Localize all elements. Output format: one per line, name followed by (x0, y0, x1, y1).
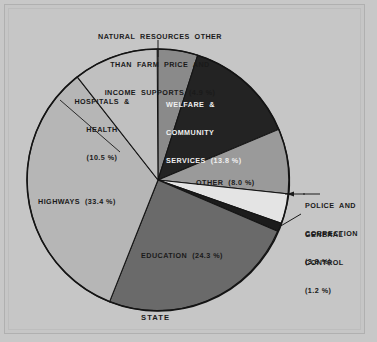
label-general-control-line3: (1.2 %) (305, 286, 375, 295)
label-highways: HIGHWAYS (33.4 %) (38, 179, 148, 225)
label-natural-resources-line2: THAN FARM PRICE AND (74, 60, 246, 69)
label-natural-resources-line1: NATURAL RESOURCES OTHER (74, 32, 246, 41)
label-other: OTHER (8.0 %) (196, 160, 286, 206)
label-welfare-line1: WELFARE & (166, 100, 276, 109)
figure-page: NATURAL RESOURCES OTHER THAN FARM PRICE … (0, 0, 377, 342)
label-general-control: GENERAL CONTROL (1.2 %) (305, 212, 375, 313)
label-education: EDUCATION (24.3 %) (141, 233, 261, 279)
label-hospitals-line3: (10.5 %) (63, 153, 141, 162)
label-highways-line1: HIGHWAYS (33.4 %) (38, 197, 148, 206)
label-general-control-line2: CONTROL (305, 258, 375, 267)
label-welfare-line2: COMMUNITY (166, 128, 276, 137)
label-education-line1: EDUCATION (24.3 %) (141, 251, 261, 260)
label-other-line1: OTHER (8.0 %) (196, 178, 286, 187)
label-hospitals-line2: HEALTH (63, 125, 141, 134)
label-hospitals-line1: HOSPITALS & (63, 97, 141, 106)
figure-caption: STATE (141, 313, 170, 322)
label-police-line1: POLICE AND (305, 201, 375, 210)
label-general-control-line1: GENERAL (305, 230, 375, 239)
label-hospitals-health: HOSPITALS & HEALTH (10.5 %) (63, 79, 141, 180)
